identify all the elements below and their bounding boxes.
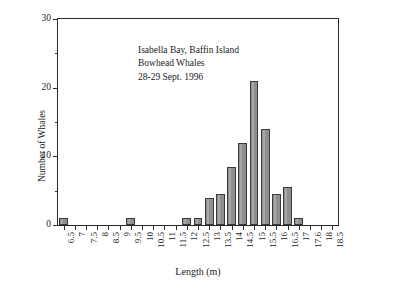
- x-tick: [187, 225, 188, 230]
- x-tick: [220, 225, 221, 230]
- x-tick-label: 16: [280, 232, 289, 241]
- x-tick: [265, 225, 266, 230]
- x-tick-label: 13: [213, 232, 222, 241]
- x-tick-label: 8: [101, 232, 110, 237]
- x-tick: [108, 225, 109, 230]
- histogram-bar: [261, 129, 270, 225]
- x-tick: [321, 225, 322, 230]
- x-tick-label: 7.5: [90, 232, 99, 243]
- x-tick: [288, 225, 289, 230]
- x-tick: [153, 225, 154, 230]
- x-tick: [310, 225, 311, 230]
- x-tick-label: 12: [190, 232, 199, 241]
- x-tick-label: 11.5: [179, 232, 188, 247]
- histogram-bar: [126, 218, 135, 225]
- histogram-bar: [283, 187, 292, 225]
- annotation-line-2: Bowhead Whales: [138, 57, 239, 70]
- y-tick-label: 10: [42, 152, 52, 162]
- x-tick-label: 9: [123, 232, 132, 237]
- x-tick-label: 7: [78, 232, 87, 237]
- x-tick: [209, 225, 210, 230]
- y-tick-label: 0: [46, 220, 51, 230]
- x-tick: [243, 225, 244, 230]
- y-axis-title: Number of Whales: [37, 109, 47, 181]
- histogram-bar: [194, 218, 203, 225]
- x-tick-label: 16.5: [291, 232, 300, 248]
- histogram-bar: [182, 218, 191, 225]
- histogram-bar: [59, 218, 68, 225]
- x-tick: [254, 225, 255, 230]
- x-tick: [299, 225, 300, 230]
- chart-annotation: Isabella Bay, Baffin Island Bowhead Whal…: [138, 44, 239, 84]
- x-tick: [75, 225, 76, 230]
- x-tick-label: 18: [325, 232, 334, 241]
- annotation-line-3: 28-29 Sept. 1996: [138, 71, 239, 84]
- x-tick-label: 6.5: [67, 232, 76, 243]
- x-tick: [276, 225, 277, 230]
- x-axis-title: Length (m): [57, 266, 339, 277]
- y-tick-major: [53, 225, 58, 226]
- plot-area: 0102030 6.577.588.599.51010.51111.51212.…: [57, 18, 339, 226]
- x-tick: [142, 225, 143, 230]
- x-tick-label: 14: [235, 232, 244, 241]
- x-tick: [164, 225, 165, 230]
- histogram-bar: [216, 194, 225, 225]
- histogram-bar: [238, 143, 247, 225]
- x-tick-label: 11: [168, 232, 177, 241]
- x-tick-label: 15.5: [269, 232, 278, 248]
- histogram-chart: Number of Whales 0102030 6.577.588.599.5…: [0, 0, 405, 291]
- histogram-bar: [250, 81, 259, 225]
- x-tick-label: 10: [146, 232, 155, 241]
- x-tick-label: 14.5: [246, 232, 255, 248]
- y-tick-label: 20: [42, 83, 52, 93]
- x-tick-label: 12.5: [202, 232, 211, 248]
- x-tick-label: 18.5: [336, 232, 345, 248]
- x-tick-label: 13.5: [224, 232, 233, 248]
- histogram-bar: [205, 198, 214, 225]
- y-tick-label: 30: [42, 14, 52, 24]
- annotation-line-1: Isabella Bay, Baffin Island: [138, 44, 239, 57]
- x-tick: [232, 225, 233, 230]
- x-tick-label: 8.5: [112, 232, 121, 243]
- x-tick: [332, 225, 333, 230]
- x-tick: [64, 225, 65, 230]
- x-tick-label: 10.5: [157, 232, 166, 248]
- x-tick-label: 17: [302, 232, 311, 241]
- histogram-bar: [294, 218, 303, 225]
- x-tick-label: 17.6: [314, 232, 323, 248]
- histogram-bar: [272, 194, 281, 225]
- x-tick: [176, 225, 177, 230]
- x-tick-label: 9.5: [134, 232, 143, 243]
- histogram-bar: [227, 167, 236, 225]
- x-tick: [86, 225, 87, 230]
- x-tick: [120, 225, 121, 230]
- x-tick: [97, 225, 98, 230]
- x-tick: [198, 225, 199, 230]
- x-tick: [131, 225, 132, 230]
- x-tick-label: 15: [258, 232, 267, 241]
